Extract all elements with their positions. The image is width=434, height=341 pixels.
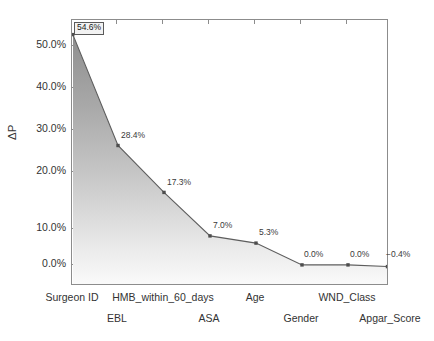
x-axis-tick-label: EBL xyxy=(107,312,127,324)
series-plot xyxy=(72,20,388,285)
data-cursor-tip[interactable]: 54.6% xyxy=(74,22,104,35)
series-marker[interactable] xyxy=(300,263,303,266)
plot-area xyxy=(71,19,388,285)
x-axis-tick-label: WND_Class xyxy=(318,291,375,303)
series-marker[interactable] xyxy=(254,241,257,244)
x-axis-tick-label: HMB_within_60_days xyxy=(112,291,214,303)
series-area-fill xyxy=(73,35,388,285)
figure-canvas: ΔP 50.0% 40.0% 30.0% 20.0% 10.0% 0.0% xyxy=(0,0,434,341)
point-value-label: 28.4% xyxy=(121,130,145,140)
y-axis-label: ΔP xyxy=(6,125,18,140)
x-axis-tick-label: Apgar_Score xyxy=(359,312,420,324)
y-axis-tick-label: 30.0% xyxy=(36,122,66,134)
point-value-label: 0.0% xyxy=(350,249,369,259)
y-axis-tick-label: 10.0% xyxy=(36,221,66,233)
x-axis-tick-label: ASA xyxy=(198,312,219,324)
x-axis-tick-label: Surgeon ID xyxy=(45,291,98,303)
point-value-label: 0.0% xyxy=(304,249,323,259)
series-marker[interactable] xyxy=(116,144,119,147)
series-marker[interactable] xyxy=(162,191,165,194)
y-axis-tick-label: 0.0% xyxy=(42,257,66,269)
x-axis-tick-label: Gender xyxy=(283,312,318,324)
y-axis-tick-label: 20.0% xyxy=(36,164,66,176)
series-marker[interactable] xyxy=(386,265,388,268)
point-value-label: 5.3% xyxy=(259,227,278,237)
point-value-label: 7.0% xyxy=(213,220,232,230)
x-axis-tick-label: Age xyxy=(246,291,265,303)
point-value-label: −0.4% xyxy=(386,249,410,259)
series-marker[interactable] xyxy=(208,234,211,237)
y-axis-tick-label: 50.0% xyxy=(36,38,66,50)
y-axis-tick-label: 40.0% xyxy=(36,80,66,92)
point-value-label: 17.3% xyxy=(167,177,191,187)
series-marker[interactable] xyxy=(346,263,349,266)
